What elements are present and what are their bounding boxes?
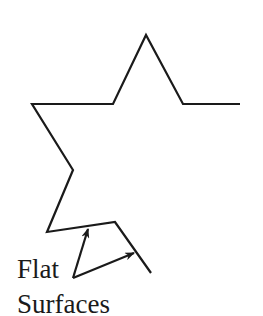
arrow-to-flat-surface-1 bbox=[73, 229, 88, 278]
flat-surfaces-label-line2: Surfaces bbox=[17, 291, 110, 316]
arrow-to-flat-surface-2 bbox=[73, 253, 134, 278]
flat-surfaces-label-line1: Flat bbox=[17, 256, 59, 283]
profile-outline bbox=[32, 35, 240, 273]
